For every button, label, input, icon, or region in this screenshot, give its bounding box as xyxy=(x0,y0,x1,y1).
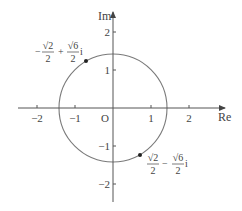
x-tick-label: −1 xyxy=(69,112,81,124)
imaginary-axis-label: Im xyxy=(98,9,112,23)
svg-text:√6: √6 xyxy=(173,152,184,163)
svg-text:i: i xyxy=(185,158,188,169)
x-tick-label: 2 xyxy=(186,112,192,124)
svg-text:2: 2 xyxy=(176,165,181,176)
svg-text:−: − xyxy=(35,46,41,57)
svg-text:i: i xyxy=(80,46,83,57)
point-upper-left xyxy=(84,59,88,63)
y-tick-label: 2 xyxy=(105,26,111,38)
real-axis-label: Re xyxy=(218,110,231,124)
complex-plane-diagram: −2 −1 1 2 2 1 −1 −2 O Re Im − √2 2 + √6 … xyxy=(0,0,242,211)
y-tick-label: 1 xyxy=(105,64,111,76)
svg-text:√2: √2 xyxy=(43,40,54,51)
svg-text:2: 2 xyxy=(71,53,76,64)
x-tick-label: −2 xyxy=(31,112,43,124)
origin-label: O xyxy=(101,112,109,124)
y-tick-label: −2 xyxy=(98,178,110,190)
svg-text:√2: √2 xyxy=(148,152,159,163)
point-label-lower-right: √2 2 − √6 2 i xyxy=(147,152,188,176)
svg-text:2: 2 xyxy=(151,165,156,176)
diagram-svg: −2 −1 1 2 2 1 −1 −2 O Re Im − √2 2 + √6 … xyxy=(0,0,242,211)
point-label-upper-left: − √2 2 + √6 2 i xyxy=(35,40,83,64)
svg-text:2: 2 xyxy=(46,53,51,64)
x-tick-label: 1 xyxy=(148,112,154,124)
point-lower-right xyxy=(138,153,142,157)
svg-text:−: − xyxy=(162,158,168,169)
svg-text:√6: √6 xyxy=(68,40,79,51)
svg-text:+: + xyxy=(58,46,64,57)
y-tick-label: −1 xyxy=(98,140,110,152)
